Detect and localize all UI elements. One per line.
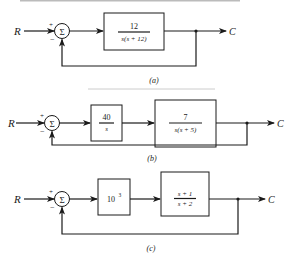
diagram-a: R + − Σ 12 s(s + 12) C (a) (13, 13, 236, 85)
diagram-b: R + − Σ 40 s 7 s(s + 5) C (b) (7, 100, 284, 163)
gain-base: 10 (107, 195, 115, 204)
plus-sign: + (49, 21, 53, 29)
diagram-label: (a) (149, 76, 159, 85)
block-numerator: 40 (103, 113, 111, 122)
block-denominator: s(s + 12) (121, 35, 147, 43)
block-numerator: s + 1 (178, 190, 192, 198)
block-numerator: 12 (130, 22, 138, 31)
sigma-symbol: Σ (59, 27, 64, 37)
minus-sign: − (40, 127, 45, 136)
input-label-r: R (7, 117, 15, 129)
sigma-symbol: Σ (49, 119, 54, 129)
diagram-label: (c) (147, 244, 156, 253)
feedback-path (62, 199, 238, 234)
output-label-c: C (277, 118, 284, 129)
input-label-r: R (13, 25, 21, 37)
output-label-c: C (229, 26, 236, 37)
block-diagrams-figure: R + − Σ 12 s(s + 12) C (a) R + − Σ 40 s … (0, 0, 293, 259)
plus-sign: + (40, 112, 44, 120)
gain-exponent: 3 (119, 192, 122, 198)
block-numerator: 7 (184, 113, 188, 122)
output-label-c: C (268, 194, 275, 205)
block-denominator: s(s + 5) (175, 126, 198, 134)
clipped-text-fragment (20, 0, 240, 2)
diagram-label: (b) (147, 154, 157, 163)
minus-sign: − (50, 203, 55, 212)
diagram-c: R + − Σ 10 3 s + 1 s + 2 C (c) (13, 172, 275, 253)
block-denominator: s (105, 125, 108, 133)
block-denominator: s + 2 (178, 200, 193, 208)
sigma-symbol: Σ (59, 195, 64, 205)
minus-sign: − (50, 35, 55, 44)
input-label-r: R (13, 193, 21, 205)
feedback-path (52, 123, 247, 145)
plus-sign: + (49, 188, 53, 196)
